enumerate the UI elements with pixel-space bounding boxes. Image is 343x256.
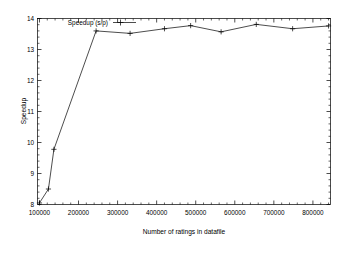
series-layer [39,24,328,203]
data-point-marker [94,28,99,33]
speedup-chart: 891011121314 100000200000300000400000500… [0,0,343,256]
data-point-marker [51,147,56,152]
x-tick-label: 200000 [68,209,90,216]
y-tick-label: 11 [27,108,34,115]
y-axis-tick-labels: 891011121314 [27,15,35,208]
y-tick-label: 10 [27,139,35,146]
y-tick-label: 14 [27,15,35,22]
x-tick-label: 600000 [224,209,246,216]
y-axis-ticks [38,19,331,205]
x-axis-ticks [39,19,328,205]
data-point-marker [127,31,132,36]
y-tick-label: 9 [30,170,34,177]
x-axis-tick-labels: 1000002000003000004000005000006000007000… [29,209,324,216]
x-tick-label: 800000 [302,209,324,216]
x-axis-title: Number of ratings in datafile [143,228,226,236]
legend: Speedup (s/p) [68,19,136,27]
legend-entry-label: Speedup (s/p) [68,19,108,27]
y-axis-title: Speedup [20,97,28,124]
series-markers [37,22,331,206]
y-tick-label: 8 [30,201,34,208]
chart-svg: 891011121314 100000200000300000400000500… [0,0,343,256]
data-point-marker [46,186,51,191]
y-tick-label: 13 [27,46,35,53]
x-tick-label: 300000 [107,209,129,216]
y-tick-label: 12 [27,77,35,84]
x-tick-label: 100000 [29,209,51,216]
x-tick-label: 500000 [185,209,207,216]
data-point-marker [162,26,167,31]
x-tick-label: 700000 [263,209,285,216]
data-point-marker [254,22,259,27]
series-line [39,24,328,203]
x-tick-label: 400000 [146,209,168,216]
legend-marker-sample [118,20,124,26]
data-point-marker [219,29,224,34]
plot-frame [38,19,331,205]
data-point-marker [188,23,193,28]
data-point-marker [290,26,295,31]
